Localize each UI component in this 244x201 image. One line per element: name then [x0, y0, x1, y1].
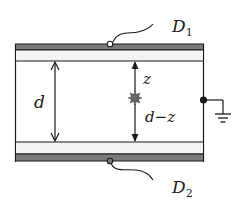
label-d1: D1	[171, 16, 193, 39]
detector-diagram: D1 D2 d z d−z	[0, 0, 244, 201]
top-plate-coating	[16, 50, 204, 61]
bottom-contact-icon	[107, 158, 113, 164]
top-contact-icon	[107, 41, 113, 47]
gap-arrow	[51, 62, 59, 141]
z-arrow	[132, 62, 138, 92]
ground-icon	[215, 114, 231, 122]
ground-connection	[200, 96, 231, 122]
label-d2: D2	[171, 177, 193, 200]
charge-starburst-icon	[128, 91, 142, 105]
d-minus-z-arrow	[132, 104, 138, 141]
label-d: d	[34, 92, 45, 112]
arrowhead-down-icon	[132, 134, 138, 141]
label-d-minus-z: d−z	[145, 108, 175, 126]
bottom-plate-coating	[16, 142, 204, 154]
bottom-lead-wire	[111, 163, 153, 180]
top-lead-wire	[113, 24, 153, 42]
label-z: z	[142, 70, 151, 88]
arrowhead-up-icon	[132, 62, 138, 69]
